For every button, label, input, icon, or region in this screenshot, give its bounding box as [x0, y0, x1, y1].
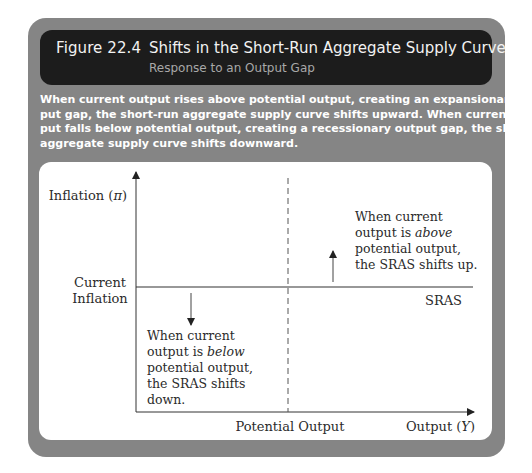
sras-chart: Inflation (π) Current Inflation SRAS Whe… [0, 0, 532, 473]
svg-text:down.: down. [147, 392, 185, 407]
svg-text:the SRAS shifts up.: the SRAS shifts up. [355, 257, 478, 272]
shift-up-annotation: When current output is above potential o… [355, 209, 478, 272]
svg-text:output is above: output is above [355, 225, 453, 240]
shift-down-annotation: When current output is below potential o… [147, 328, 253, 407]
svg-text:potential output,: potential output, [355, 241, 461, 256]
x-axis-label: Output (Y) [406, 419, 475, 434]
current-inflation-label: Inflation [72, 291, 128, 306]
potential-output-label: Potential Output [236, 419, 346, 434]
svg-text:When current: When current [355, 209, 443, 224]
svg-text:When current: When current [147, 328, 235, 343]
svg-text:output is below: output is below [147, 344, 245, 359]
sras-label: SRAS [425, 293, 462, 308]
svg-text:the SRAS shifts: the SRAS shifts [147, 376, 246, 391]
svg-text:potential output,: potential output, [147, 360, 253, 375]
current-inflation-label: Current [74, 275, 127, 290]
y-axis-label: Inflation (π) [49, 188, 127, 203]
